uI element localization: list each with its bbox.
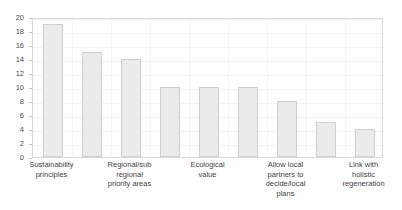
y-tick-label: 2 <box>20 140 24 148</box>
x-tick-label-line: Link with <box>325 160 402 170</box>
x-tick-label-line: principles <box>13 170 91 180</box>
x-tick-label: Regional/subregionalpriority areas <box>91 160 169 189</box>
y-tick-label: 6 <box>20 112 24 120</box>
bar <box>238 87 258 157</box>
y-tick-label: 4 <box>20 126 24 134</box>
x-tick-label-line: priority areas <box>91 179 169 189</box>
gridline <box>33 47 382 48</box>
bar <box>199 87 219 157</box>
x-tick-label-line: regeneration <box>325 179 402 189</box>
x-tick-label-line: partners to <box>247 170 325 180</box>
y-tick-mark <box>29 158 32 159</box>
x-tick-label-line: regional <box>91 170 169 180</box>
bar-chart: 02468101214161820 Sustainabilityprincipl… <box>0 0 402 210</box>
slot-divider <box>306 19 307 157</box>
bar <box>121 59 141 157</box>
bar <box>277 101 297 157</box>
x-tick-label-line: value <box>169 170 247 180</box>
y-axis: 02468101214161820 <box>0 18 32 158</box>
x-tick-label-line: holistic <box>325 170 402 180</box>
x-tick-label-line: Ecological <box>169 160 247 170</box>
slot-divider <box>189 19 190 157</box>
x-tick-label: Link withholisticregeneration <box>325 160 402 189</box>
x-axis-labels: SustainabilityprinciplesRegional/subregi… <box>32 160 383 208</box>
slot-divider <box>72 19 73 157</box>
y-tick-label: 20 <box>16 14 24 22</box>
slot-divider <box>267 19 268 157</box>
y-tick-label: 8 <box>20 98 24 106</box>
x-tick-label-line: plans <box>247 189 325 199</box>
x-tick-label-line: Sustainability <box>13 160 91 170</box>
slot-divider <box>111 19 112 157</box>
x-tick-label-line: Allow local <box>247 160 325 170</box>
y-tick-label: 10 <box>16 84 24 92</box>
bar <box>43 24 63 157</box>
bar <box>160 87 180 157</box>
x-tick-label-line: Regional/sub <box>91 160 169 170</box>
y-tick-label: 18 <box>16 28 24 36</box>
plot-area <box>32 18 383 158</box>
slot-divider <box>150 19 151 157</box>
bar <box>82 52 102 157</box>
y-tick-label: 12 <box>16 70 24 78</box>
y-tick-label: 14 <box>16 56 24 64</box>
bar <box>355 129 375 157</box>
x-tick-label: Ecologicalvalue <box>169 160 247 179</box>
x-tick-label: Sustainabilityprinciples <box>13 160 91 179</box>
gridline <box>33 33 382 34</box>
x-tick-label: Allow localpartners todecide/localplans <box>247 160 325 198</box>
gridline <box>33 19 382 20</box>
x-tick-label-line: decide/local <box>247 179 325 189</box>
bar <box>316 122 336 157</box>
slot-divider <box>228 19 229 157</box>
slot-divider <box>345 19 346 157</box>
y-tick-label: 16 <box>16 42 24 50</box>
